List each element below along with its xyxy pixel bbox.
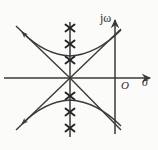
imaginary-axis-label: jω — [100, 12, 111, 24]
origin-label: O — [121, 80, 129, 91]
root-locus-figure: jω σ O — [0, 0, 158, 150]
axes-group — [4, 20, 150, 134]
real-axis-label: σ — [142, 76, 148, 88]
root-locus-canvas — [0, 0, 158, 150]
asymptote-lower-right-line — [70, 78, 121, 130]
